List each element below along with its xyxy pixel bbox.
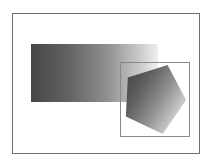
gradient-pentagon-svg xyxy=(121,63,189,136)
figure-canvas xyxy=(0,0,211,165)
clipping-frame xyxy=(120,62,190,137)
pentagon-fill xyxy=(126,65,186,134)
